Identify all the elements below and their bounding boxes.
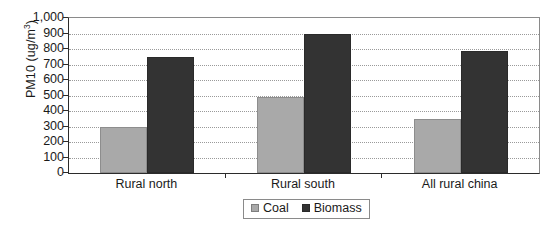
bar-biomass-rural-south	[304, 34, 351, 174]
plot-area	[68, 17, 540, 174]
bar-coal-all-rural-china	[414, 119, 461, 173]
legend-label: Biomass	[314, 202, 362, 215]
x-axis-tick-label: Rural south	[271, 177, 335, 191]
legend-entry-coal: Coal	[251, 202, 289, 215]
y-axis-tick-label: 500	[0, 88, 64, 101]
y-axis-tick-label: 0	[0, 166, 64, 179]
bar-biomass-rural-north	[147, 57, 194, 173]
legend-label: Coal	[263, 202, 289, 215]
y-axis-tick-label: 400	[0, 104, 64, 117]
y-axis-tick-label: 200	[0, 135, 64, 148]
x-axis-tick-label: All rural china	[422, 177, 498, 191]
bars-layer	[69, 18, 539, 173]
bar-coal-rural-south	[257, 97, 304, 173]
legend: CoalBiomass	[243, 199, 370, 219]
y-axis-tick-label: 700	[0, 57, 64, 70]
bar-coal-rural-north	[100, 127, 147, 174]
y-axis-tick-label: 900	[0, 26, 64, 39]
bar-biomass-all-rural-china	[461, 51, 508, 173]
y-axis-tick-label: 600	[0, 73, 64, 86]
y-axis-tick-labels: 1,0009008007006005004003002001000	[0, 17, 64, 172]
y-axis-tick-label: 1,000	[0, 11, 64, 24]
legend-entry-biomass: Biomass	[302, 202, 362, 215]
legend-swatch-biomass-icon	[302, 204, 310, 212]
y-axis-tick-label: 100	[0, 150, 64, 163]
y-axis-tick-label: 300	[0, 119, 64, 132]
y-axis-tick-label: 800	[0, 42, 64, 55]
bar-chart: PM10 (ug/m3) 1,0009008007006005004003002…	[0, 0, 552, 225]
x-axis-tick-label: Rural north	[115, 177, 177, 191]
legend-swatch-coal-icon	[251, 204, 259, 212]
x-axis-tick-labels: Rural northRural southAll rural china	[68, 177, 538, 195]
